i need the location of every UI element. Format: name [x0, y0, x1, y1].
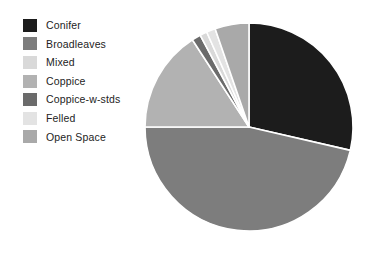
- pie-slice-broadleaves[interactable]: [145, 127, 350, 231]
- pie-chart-plot-area: [0, 0, 373, 260]
- pie-chart-figure: Conifer Broadleaves Mixed Coppice Coppic…: [0, 0, 373, 260]
- pie-slice-group: [145, 23, 353, 231]
- pie-chart-svg: [0, 0, 373, 260]
